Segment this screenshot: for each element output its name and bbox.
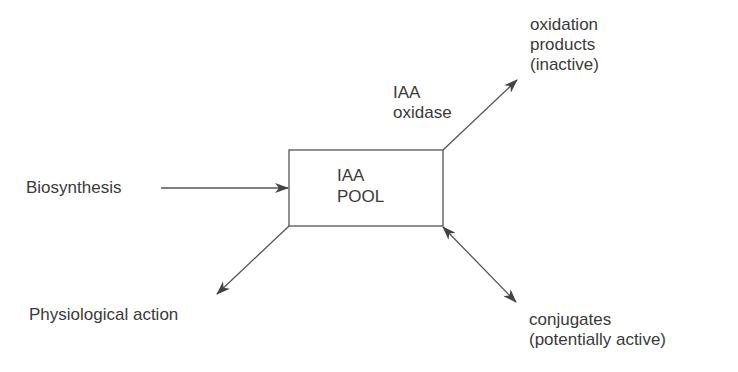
biosynthesis-label: Biosynthesis [26,178,121,198]
conjugates-line-2: (potentially active) [529,330,666,350]
iaa-oxidase-line-1: IAA [393,83,452,103]
iaa-oxidase-label: IAA oxidase [393,83,452,123]
iaa-oxidase-line-2: oxidase [393,103,452,123]
oxidation-products-line-3: (inactive) [530,55,599,75]
iaa-pool-line-1: IAA [337,165,384,186]
oxidase-arrow [443,80,517,150]
physiological-action-label: Physiological action [29,305,178,325]
oxidation-products-line-1: oxidation [530,15,599,35]
oxidation-products-line-2: products [530,35,599,55]
oxidation-products-label: oxidation products (inactive) [530,15,599,75]
conjugates-label: conjugates (potentially active) [529,310,666,350]
iaa-pool-label: IAA POOL [337,165,384,207]
conjugates-arrow [443,227,516,302]
physiological-action-arrow [217,226,289,294]
conjugates-line-1: conjugates [529,310,666,330]
iaa-pool-line-2: POOL [337,186,384,207]
